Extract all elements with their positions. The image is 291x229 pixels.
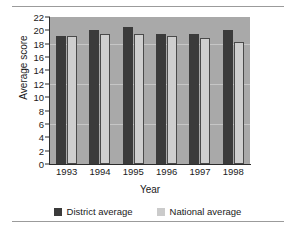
y-axis-tick-label: 2 — [39, 146, 44, 155]
y-axis-tick-label: 6 — [39, 119, 44, 128]
bar-group — [223, 17, 244, 164]
x-axis-tick-label: 1998 — [218, 166, 248, 177]
x-axis-tick-labels: 199319941995199619971998 — [50, 166, 250, 177]
bar-national-1993 — [67, 36, 77, 164]
y-axis-tick-label: 20 — [33, 26, 44, 35]
y-axis-tick-label: 22 — [33, 13, 44, 22]
y-axis-tick-label: 16 — [33, 53, 44, 62]
x-axis-tick-label: 1996 — [152, 166, 182, 177]
bar-national-1995 — [134, 34, 144, 164]
bar-district-1996 — [156, 34, 166, 164]
bar-national-1994 — [100, 34, 110, 164]
bar-groups — [50, 17, 250, 164]
x-axis-line — [49, 164, 251, 165]
legend-label: District average — [67, 206, 133, 217]
bar-chart: Average score 2220181614121086420 199319… — [0, 10, 291, 218]
x-axis-title: Year — [50, 184, 250, 195]
y-axis-tick-label: 8 — [39, 106, 44, 115]
bar-group — [156, 17, 177, 164]
bottom-divider-rule — [12, 221, 284, 222]
y-axis-tick-label: 18 — [33, 39, 44, 48]
x-axis-tick-label: 1995 — [118, 166, 148, 177]
bar-district-1997 — [189, 34, 199, 164]
bar-national-1997 — [200, 38, 210, 164]
x-axis-tick-label: 1997 — [185, 166, 215, 177]
bar-group — [56, 17, 77, 164]
bar-group — [123, 17, 144, 164]
y-axis-tick-labels: 2220181614121086420 — [22, 17, 44, 163]
top-divider-rule — [12, 6, 284, 7]
legend-label: National average — [170, 206, 242, 217]
legend-swatch-icon — [54, 208, 62, 216]
x-axis-tick-label: 1994 — [85, 166, 115, 177]
y-axis-tick-label: 10 — [33, 93, 44, 102]
bar-district-1995 — [123, 27, 133, 164]
bar-district-1998 — [223, 30, 233, 164]
y-axis-tick-label: 0 — [39, 160, 44, 169]
bar-group — [89, 17, 110, 164]
legend: District averageNational average — [30, 206, 265, 217]
bar-national-1996 — [167, 36, 177, 164]
legend-swatch-icon — [157, 208, 165, 216]
bar-district-1994 — [89, 30, 99, 164]
y-axis-tick-label: 4 — [39, 133, 44, 142]
legend-item: National average — [157, 206, 242, 217]
bar-district-1993 — [56, 36, 66, 164]
x-axis-tick-label: 1993 — [52, 166, 82, 177]
y-axis-tick-label: 14 — [33, 66, 44, 75]
y-axis-tick-label: 12 — [33, 79, 44, 88]
bar-group — [189, 17, 210, 164]
bar-national-1998 — [234, 42, 244, 164]
legend-item: District average — [54, 206, 133, 217]
figure: Average score 2220181614121086420 199319… — [0, 0, 291, 229]
